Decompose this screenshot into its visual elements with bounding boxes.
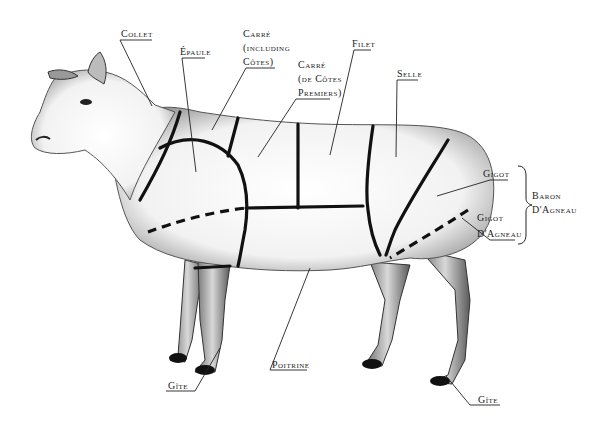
label-poitrine: Poitrine bbox=[272, 359, 310, 370]
lamb-cuts-diagram: Collet Épaule Carré (including Côtes) Ca… bbox=[0, 0, 605, 433]
label-filet: Filet bbox=[352, 38, 375, 49]
label-carre-including-2: (including bbox=[243, 42, 290, 54]
label-collet: Collet bbox=[121, 28, 153, 39]
label-epaule: Épaule bbox=[180, 46, 211, 57]
label-carre-including-1: Carré bbox=[243, 28, 271, 39]
label-gite-front: Gîte bbox=[168, 380, 188, 391]
hoof bbox=[362, 359, 382, 369]
lamb-body bbox=[110, 107, 494, 271]
label-carre-premiers-2: (de Côtes bbox=[298, 73, 342, 85]
label-baron-1: Baron bbox=[532, 190, 561, 201]
label-selle: Selle bbox=[397, 68, 422, 79]
label-carre-premiers-1: Carré bbox=[298, 59, 326, 70]
hoof bbox=[169, 353, 187, 363]
lamb-illustration: Collet Épaule Carré (including Côtes) Ca… bbox=[0, 0, 605, 433]
label-gigot-dagneau-1: Gigot bbox=[477, 212, 504, 223]
label-baron-2: D'Agneau bbox=[532, 204, 577, 215]
label-gigot-dagneau-2: D'Agneau bbox=[477, 228, 522, 239]
label-gigot: Gigot bbox=[483, 168, 510, 179]
label-gite-rear: Gîte bbox=[478, 394, 498, 405]
label-carre-including-3: Côtes) bbox=[243, 56, 274, 68]
label-carre-premiers-3: Premiers) bbox=[298, 87, 342, 99]
eye bbox=[80, 99, 92, 105]
